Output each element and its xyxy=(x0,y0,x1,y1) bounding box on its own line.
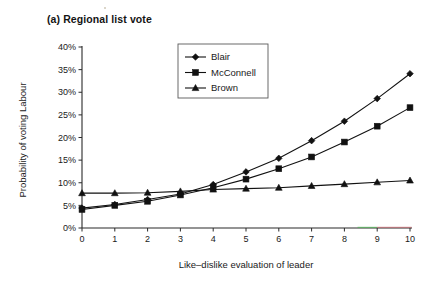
legend-label: Blair xyxy=(211,51,230,62)
y-tick-label: 0% xyxy=(63,223,76,233)
data-point-mcconnell-10 xyxy=(407,105,413,111)
x-tick-label: 4 xyxy=(211,234,216,244)
x-tick-label: 10 xyxy=(405,234,415,244)
x-tick-label: 0 xyxy=(79,234,84,244)
x-axis-title: Like–dislike evaluation of leader xyxy=(179,259,314,270)
data-point-mcconnell-8 xyxy=(341,139,347,145)
y-tick-label: 40% xyxy=(58,42,76,52)
x-tick-label: 8 xyxy=(342,234,347,244)
line-chart: 0%5%10%15%20%25%30%35%40% 012345678910 B… xyxy=(0,0,443,292)
y-tick-label: 20% xyxy=(58,133,76,143)
data-point-mcconnell-0 xyxy=(79,207,85,213)
y-tick-label: 30% xyxy=(58,87,76,97)
y-tick-label: 5% xyxy=(63,201,76,211)
x-tick-label: 6 xyxy=(276,234,281,244)
x-axis: 012345678910 xyxy=(79,228,415,244)
legend-label: Brown xyxy=(211,82,238,93)
scan-speck xyxy=(104,7,106,9)
data-point-blair-6 xyxy=(276,155,283,162)
figure-panel: (a) Regional list vote 0%5%10%15%20%25%3… xyxy=(0,0,443,292)
panel-title: (a) Regional list vote xyxy=(47,13,152,25)
legend-marker-square xyxy=(193,70,199,76)
data-point-blair-7 xyxy=(308,137,315,144)
x-tick-label: 7 xyxy=(309,234,314,244)
x-tick-label: 5 xyxy=(243,234,248,244)
x-tick-label: 3 xyxy=(178,234,183,244)
chart-legend[interactable]: BlairMcConnellBrown xyxy=(178,44,268,98)
data-point-mcconnell-5 xyxy=(243,176,249,182)
data-point-mcconnell-7 xyxy=(309,154,315,160)
y-axis-title: Probability of voting Labour xyxy=(17,82,28,197)
x-tick-label: 1 xyxy=(112,234,117,244)
y-tick-label: 10% xyxy=(58,178,76,188)
x-tick-label: 2 xyxy=(145,234,150,244)
y-tick-label: 25% xyxy=(58,110,76,120)
y-tick-label: 15% xyxy=(58,155,76,165)
data-point-blair-5 xyxy=(243,169,250,176)
y-axis: 0%5%10%15%20%25%30%35%40% xyxy=(58,42,82,233)
data-point-mcconnell-6 xyxy=(276,166,282,172)
x-tick-label: 9 xyxy=(375,234,380,244)
legend-label: McConnell xyxy=(211,67,256,78)
data-point-blair-8 xyxy=(341,118,348,125)
data-point-mcconnell-1 xyxy=(112,202,118,208)
data-point-mcconnell-9 xyxy=(374,123,380,129)
data-point-brown-10 xyxy=(407,177,414,183)
series-mcconnell xyxy=(79,105,413,213)
y-tick-label: 35% xyxy=(58,65,76,75)
data-point-mcconnell-2 xyxy=(145,198,151,204)
